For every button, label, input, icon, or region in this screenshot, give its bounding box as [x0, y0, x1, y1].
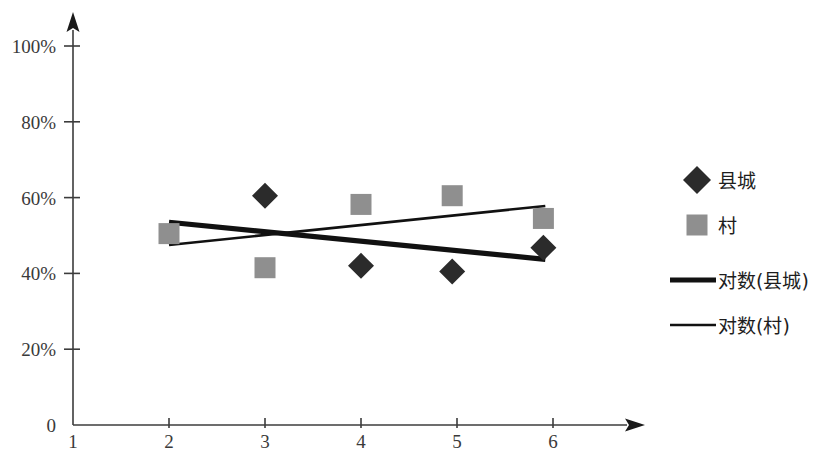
y-tick-label: 100%	[12, 36, 57, 57]
y-tick-label: 40%	[21, 263, 56, 284]
x-axis-arrow-icon	[625, 419, 645, 432]
data-point-square	[255, 257, 276, 278]
x-axis-ticks: 123456	[68, 418, 558, 451]
trend-line	[169, 222, 545, 259]
x-tick-label: 1	[68, 431, 78, 451]
y-tick-label: 60%	[21, 188, 56, 209]
data-point-diamond	[348, 253, 374, 279]
x-tick-label: 2	[164, 431, 174, 451]
legend-item-label: 村	[718, 215, 737, 237]
data-point-diamond	[439, 259, 465, 285]
y-tick-label: 80%	[21, 112, 56, 133]
data-point-square	[687, 215, 708, 236]
data-point-square	[442, 185, 463, 206]
data-point-diamond	[683, 166, 711, 194]
data-point-diamond	[252, 183, 278, 209]
data-markers-group	[159, 183, 557, 285]
chart-container: 020%40%60%80%100% 123456 县城村对数(县城)对数(村)	[0, 0, 820, 451]
x-tick-label: 3	[260, 431, 270, 451]
x-tick-label: 6	[548, 431, 558, 451]
axes-group	[67, 12, 646, 432]
y-axis-ticks: 020%40%60%80%100%	[12, 36, 80, 436]
legend-item-label: 对数(村)	[718, 315, 790, 337]
x-tick-label: 5	[452, 431, 462, 451]
y-tick-label: 0	[47, 415, 57, 436]
legend-item-label: 对数(县城)	[718, 270, 809, 292]
data-point-square	[533, 208, 554, 229]
x-tick-label: 4	[356, 431, 366, 451]
chart-canvas: 020%40%60%80%100% 123456 县城村对数(县城)对数(村)	[0, 0, 820, 451]
chart-legend: 县城村对数(县城)对数(村)	[670, 166, 809, 337]
data-point-square	[159, 223, 180, 244]
legend-item-label: 县城	[718, 170, 756, 192]
y-tick-label: 20%	[21, 339, 56, 360]
data-point-square	[351, 194, 372, 215]
y-axis-arrow-icon	[67, 12, 80, 32]
